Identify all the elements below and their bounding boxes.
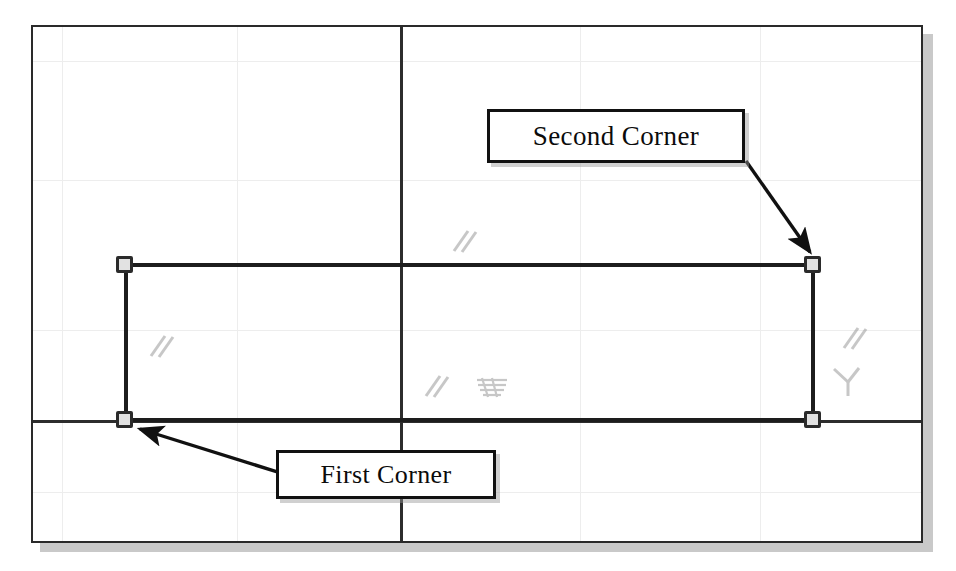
- top-right-grip[interactable]: [804, 256, 821, 273]
- slash-mark-right-icon: [838, 322, 872, 358]
- grid-line-vertical: [760, 27, 761, 541]
- rectangle-top-edge: [124, 263, 815, 267]
- top-left-grip[interactable]: [116, 256, 133, 273]
- bottom-left-grip[interactable]: [116, 411, 133, 428]
- tee-mark-right-icon: [829, 362, 867, 404]
- hatch-mark-center-icon: [473, 372, 511, 406]
- slash-mark-center-icon: [420, 370, 454, 406]
- callout-second-corner[interactable]: Second Corner: [487, 109, 745, 163]
- rectangle-bottom-edge: [124, 418, 815, 422]
- grid-line-vertical: [580, 27, 581, 541]
- grid-line-horizontal: [33, 61, 921, 62]
- rectangle-right-edge: [811, 263, 815, 420]
- slash-mark-left-icon: [145, 330, 179, 366]
- slash-mark-upper-center-icon: [448, 225, 482, 261]
- rectangle-left-edge: [124, 263, 128, 420]
- grid-line-horizontal: [33, 180, 921, 181]
- callout-first-corner-label: First Corner: [320, 460, 451, 490]
- bottom-right-grip[interactable]: [804, 411, 821, 428]
- grid-line-vertical: [237, 27, 238, 541]
- callout-second-corner-label: Second Corner: [533, 121, 699, 152]
- callout-first-corner[interactable]: First Corner: [276, 450, 496, 499]
- grid-line-vertical: [62, 27, 63, 541]
- figure-root: Second Corner First Corner: [0, 0, 956, 571]
